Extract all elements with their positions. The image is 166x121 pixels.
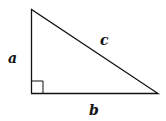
label-c: c [100,32,109,48]
triangle [32,10,159,94]
right-triangle-diagram: a c b [0,0,166,121]
right-angle-marker [32,81,44,94]
label-b: b [89,102,99,118]
label-a: a [8,50,17,66]
